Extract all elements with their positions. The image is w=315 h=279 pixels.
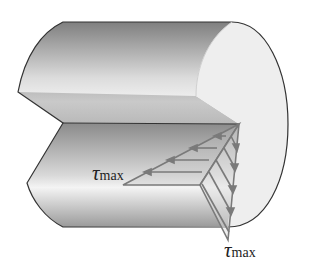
shaft-torsion-diagram: τmax τmax (0, 0, 315, 279)
shaft-drawing (0, 0, 315, 279)
tau-max-label-vertical: τmax (224, 240, 256, 261)
tau-max-label-horizontal: τmax (92, 163, 124, 184)
